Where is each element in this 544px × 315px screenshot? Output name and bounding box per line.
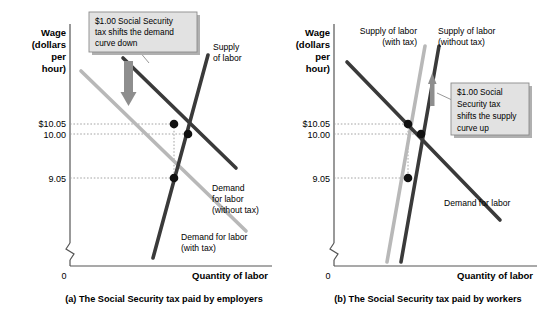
panel-a-callout-line-3: curve down xyxy=(95,38,138,48)
panel-b-y-axis-title-line-1: Wage xyxy=(305,27,330,38)
panel-a-callout-line-1: $1.00 Social Security xyxy=(95,16,174,26)
panel-b-x-axis-title: Quantity of labor xyxy=(457,270,533,281)
panel-b-label-demand-for-labor: Demand for labor xyxy=(444,198,511,208)
panel-b-tick-label-1005: $10.05 xyxy=(302,119,330,129)
panel-a-demand-wt-line-1: Demand for labor xyxy=(181,232,248,242)
panel-b-tick-label-905: 9.05 xyxy=(312,174,330,184)
panel-a: Wage (dollars per hour) 0 Quantity of la… xyxy=(32,12,272,304)
panel-a-demand-wo-line-1: Demand xyxy=(212,183,245,193)
panel-b-supply-wt-line-1: Supply of labor xyxy=(360,26,417,36)
panel-a-point-equilibrium xyxy=(184,130,193,139)
panel-b-supply-wt-line-2: (with tax) xyxy=(382,37,417,47)
panel-a-caption: (a) The Social Security tax paid by empl… xyxy=(65,294,263,304)
panel-b-y-axis-title: Wage (dollars per hour) xyxy=(296,27,331,74)
panel-b-supply-wo-line-1: Supply of labor xyxy=(438,26,495,36)
panel-a-supply-label-line-2: of labor xyxy=(213,53,242,63)
panel-b-callout-line-3: shifts the supply xyxy=(457,111,517,121)
y-axis-title-line-2: (dollars xyxy=(32,39,66,50)
panel-b-label-supply-without-tax: Supply of labor (without tax) xyxy=(438,26,495,47)
panel-a-curve-demand-without-tax xyxy=(123,58,236,168)
panel-a-curve-supply xyxy=(153,55,208,258)
panel-a-tick-label-1005: $10.05 xyxy=(38,119,66,129)
panel-a-label-supply-of-labor: Supply of labor xyxy=(213,42,242,63)
panel-b-callout-line-4: curve up xyxy=(457,123,489,133)
panel-a-label-demand-without-tax: Demand for labor (without tax) xyxy=(212,183,259,215)
panel-b-y-axis-title-line-4: hour) xyxy=(306,63,330,74)
panel-a-demand-wo-line-3: (without tax) xyxy=(212,205,259,215)
y-axis-title-line-1: Wage xyxy=(41,27,66,38)
panel-a-origin-label: 0 xyxy=(61,271,66,281)
y-axis-title-line-4: hour) xyxy=(42,63,66,74)
panel-a-callout: $1.00 Social Security tax shifts the dem… xyxy=(89,12,200,55)
panel-b-callout-line-1: $1.00 Social xyxy=(457,87,503,97)
panel-a-callout-line-2: tax shifts the demand xyxy=(95,27,174,37)
panel-b-origin-label: 0 xyxy=(325,271,330,281)
panel-b-y-axis-title-line-2: (dollars xyxy=(296,39,330,50)
panel-a-tick-label-905: 9.05 xyxy=(48,174,66,184)
panel-b-supply-wo-line-2: (without tax) xyxy=(438,37,485,47)
panel-b-tick-label-1000: 10.00 xyxy=(307,130,330,140)
panel-b-callout: $1.00 Social Security tax shifts the sup… xyxy=(451,83,532,138)
panel-b-point-wage-paid xyxy=(404,120,413,129)
social-security-tax-labor-market-figure: Wage (dollars per hour) 0 Quantity of la… xyxy=(0,0,544,315)
panel-b-label-supply-with-tax: Supply of labor (with tax) xyxy=(360,26,417,47)
panel-b-y-axis-title-line-3: per xyxy=(315,51,330,62)
panel-b: Wage (dollars per hour) 0 Quantity of la… xyxy=(296,24,537,304)
panel-b-axis-break xyxy=(330,243,338,260)
panel-b-caption: (b) The Social Security tax paid by work… xyxy=(334,294,521,304)
panel-b-callout-leader xyxy=(437,93,452,100)
panel-a-label-demand-with-tax: Demand for labor (with tax) xyxy=(181,232,248,253)
panel-b-point-wage-received xyxy=(404,174,413,183)
panel-b-point-equilibrium xyxy=(417,130,426,139)
panel-a-y-axis-title: Wage (dollars per hour) xyxy=(32,27,67,74)
panel-a-tick-label-1000: 10.00 xyxy=(43,130,66,140)
panel-a-demand-wt-line-2: (with tax) xyxy=(181,243,216,253)
panel-a-point-wage-received xyxy=(170,120,179,129)
panel-b-callout-line-2: Security tax xyxy=(457,99,501,109)
panel-a-x-axis-title: Quantity of labor xyxy=(192,270,268,281)
panel-a-demand-wo-line-2: for labor xyxy=(212,194,244,204)
y-axis-title-line-3: per xyxy=(51,51,66,62)
panel-a-axis-break xyxy=(66,243,74,260)
panel-a-point-wage-paid xyxy=(170,174,179,183)
panel-a-supply-label-line-1: Supply xyxy=(213,42,240,52)
